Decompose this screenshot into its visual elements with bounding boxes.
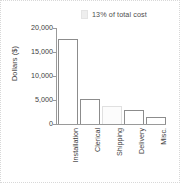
bar-chart-figure: 13% of total cost Dollars ($) 05,00010,0… [0, 0, 180, 183]
x-axis-line [56, 124, 166, 125]
y-tick-mark [53, 28, 57, 29]
y-axis-title: Dollars ($) [10, 34, 19, 94]
bar-shipping[interactable] [102, 106, 122, 124]
y-tick-mark [53, 52, 57, 53]
x-label-shipping: Shipping [115, 128, 124, 156]
y-tick-mark [53, 76, 57, 77]
y-tick-label: 20,000 [7, 23, 53, 32]
x-label-installation: Installation [71, 128, 80, 162]
x-label-clerical: Clerical [93, 128, 102, 152]
y-tick-label: 5,000 [7, 95, 53, 104]
annotation-swatch-icon [81, 10, 88, 19]
x-label-misc: Misc. [159, 128, 168, 145]
chart-annotation: 13% of total cost [81, 10, 147, 19]
x-label-delivery: Delivery [137, 128, 146, 154]
bar-delivery[interactable] [124, 110, 144, 124]
bar-installation[interactable] [58, 39, 78, 124]
plot-area: 05,00010,00015,00020,000 InstallationCle… [56, 28, 166, 125]
bar-clerical[interactable] [80, 99, 100, 124]
y-tick-label: 15,000 [7, 47, 53, 56]
y-tick-label: 10,000 [7, 71, 53, 80]
bar-misc[interactable] [146, 117, 166, 124]
annotation-label: 13% of total cost [92, 10, 147, 19]
y-tick-label: 0 [7, 119, 53, 128]
y-tick-mark [53, 124, 57, 125]
y-tick-mark [53, 100, 57, 101]
